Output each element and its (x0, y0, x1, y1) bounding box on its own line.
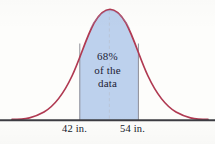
shaded-region-68-percent (12, 10, 208, 121)
axis-label-54-in: 54 in. (120, 123, 145, 134)
axis-label-42-in: 42 in. (62, 123, 87, 134)
distribution-chart-svg (0, 0, 215, 144)
normal-distribution-figure: 68% of the data 42 in. 54 in. (0, 0, 215, 144)
